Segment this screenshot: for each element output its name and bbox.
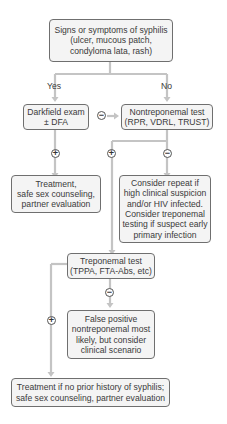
treatment-final-node: Treatment if no prior history of syphili… bbox=[11, 378, 170, 407]
minus-icon: − bbox=[97, 111, 106, 120]
false-positive-node: False positive nontreponemal most likely… bbox=[67, 310, 155, 359]
treatment-node: Treatment, safe sex counseling, partner … bbox=[11, 175, 101, 213]
no-label: No bbox=[161, 81, 172, 91]
nontreponemal-test-node: Nontreponemal test (RPR, VDRL, TRUST) bbox=[121, 104, 213, 130]
yes-label: Yes bbox=[47, 81, 61, 91]
minus-icon: − bbox=[105, 288, 114, 297]
darkfield-exam-node: Darkfield exam ± DFA bbox=[23, 104, 89, 130]
plus-icon: + bbox=[47, 316, 56, 325]
plus-icon: + bbox=[107, 149, 116, 158]
minus-icon: − bbox=[163, 149, 172, 158]
signs-symptoms-node: Signs or symptoms of syphilis (ulcer, mu… bbox=[49, 19, 173, 62]
plus-icon: + bbox=[51, 149, 60, 158]
treponemal-test-node: Treponemal test (TPPA, FTA-Abs, etc) bbox=[67, 253, 155, 279]
consider-repeat-node: Consider repeat if high clinical suspici… bbox=[119, 175, 211, 243]
